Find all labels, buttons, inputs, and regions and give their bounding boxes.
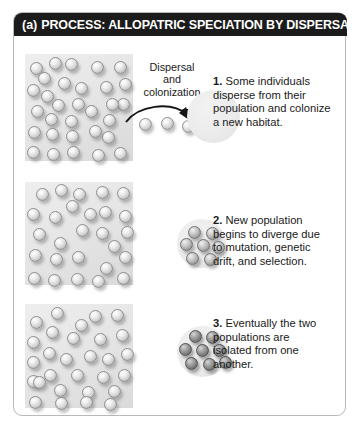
step-3-text: 3. Eventually the two populations are is…: [213, 317, 331, 371]
organism: [185, 357, 198, 370]
step-1-number: 1.: [213, 75, 222, 87]
organism: [75, 82, 88, 95]
organism: [54, 237, 67, 250]
organism: [84, 208, 97, 221]
figure-canvas: Dispersal and colonization 1. Some indiv…: [14, 36, 347, 416]
figure-header-bar: (a) PROCESS: ALLOPATRIC SPECIATION BY DI…: [14, 13, 347, 36]
organism: [29, 396, 42, 409]
organism: [196, 344, 209, 357]
organism: [67, 332, 80, 345]
figure-title: PROCESS: ALLOPATRIC SPECIATION BY DISPER…: [41, 18, 347, 32]
dispersal-label-line-2: and: [132, 73, 212, 85]
organism: [76, 224, 89, 237]
organism: [27, 356, 40, 369]
figure-container: (a) PROCESS: ALLOPATRIC SPECIATION BY DI…: [13, 12, 346, 416]
organism: [119, 210, 132, 223]
organism: [30, 316, 43, 329]
organism: [179, 343, 192, 356]
panel-id-label: (a): [22, 18, 37, 32]
organism: [92, 275, 105, 288]
organism: [66, 200, 79, 213]
organism: [27, 336, 40, 349]
organism: [60, 353, 73, 366]
organism: [117, 187, 130, 200]
organism: [114, 61, 127, 74]
organism: [27, 146, 40, 159]
organism: [52, 99, 65, 112]
organism: [92, 149, 105, 162]
step-2-number: 2.: [213, 214, 222, 226]
organism: [65, 115, 78, 128]
organism: [49, 57, 62, 70]
organism: [46, 128, 59, 141]
organism: [28, 126, 41, 139]
organism: [84, 350, 97, 363]
organism: [72, 98, 85, 111]
organism: [55, 184, 68, 197]
organism: [58, 77, 71, 90]
organism: [66, 130, 79, 143]
organism: [186, 252, 199, 265]
organism: [28, 272, 41, 285]
step-3-body: Eventually the two populations are isola…: [213, 317, 316, 370]
organism: [71, 273, 84, 286]
organism: [97, 371, 110, 384]
organism: [85, 105, 98, 118]
organism: [45, 113, 58, 126]
step-1-text: 1. Some individuals disperse from their …: [213, 75, 331, 129]
organism: [73, 188, 86, 201]
organism: [117, 272, 130, 285]
step-2-body: New population begins to diverge due to …: [213, 214, 320, 267]
organism: [44, 369, 57, 382]
organism: [33, 376, 46, 389]
organism: [96, 186, 109, 199]
organism: [38, 72, 51, 85]
organism: [75, 319, 88, 332]
organism: [139, 118, 152, 131]
organism: [72, 251, 85, 264]
organism: [65, 58, 78, 71]
organism: [27, 208, 40, 221]
step-2-text: 2. New population begins to diverge due …: [213, 214, 331, 268]
organism: [197, 239, 210, 252]
organism: [51, 307, 64, 320]
organism: [121, 348, 134, 361]
organism: [94, 333, 107, 346]
organism: [49, 211, 62, 224]
organism: [36, 188, 49, 201]
organism: [118, 369, 131, 382]
organism: [116, 329, 129, 342]
organism: [48, 274, 61, 287]
organism: [89, 310, 102, 323]
organism: [102, 353, 115, 366]
organism: [47, 148, 60, 161]
organism: [29, 249, 42, 262]
organism: [55, 397, 68, 410]
organism: [103, 114, 116, 127]
organism: [108, 240, 121, 253]
organism: [33, 228, 46, 241]
organism: [71, 369, 84, 382]
organism: [31, 105, 44, 118]
organism: [104, 398, 117, 411]
organism: [106, 98, 119, 111]
organism: [43, 347, 56, 360]
organism: [67, 146, 80, 159]
organism: [54, 384, 67, 397]
organism: [180, 238, 193, 251]
organism: [119, 251, 132, 264]
organism: [91, 61, 104, 74]
organism: [96, 227, 109, 240]
step-1-body: Some individuals disperse from their pop…: [213, 75, 331, 128]
organism: [161, 117, 174, 130]
organism: [50, 253, 63, 266]
organism: [189, 330, 202, 343]
organism: [119, 78, 132, 91]
organism: [99, 206, 112, 219]
organism: [80, 396, 93, 409]
organism: [111, 309, 124, 322]
organism: [100, 81, 113, 94]
step-3-number: 3.: [213, 317, 222, 329]
organism: [108, 385, 121, 398]
organism: [188, 226, 201, 239]
